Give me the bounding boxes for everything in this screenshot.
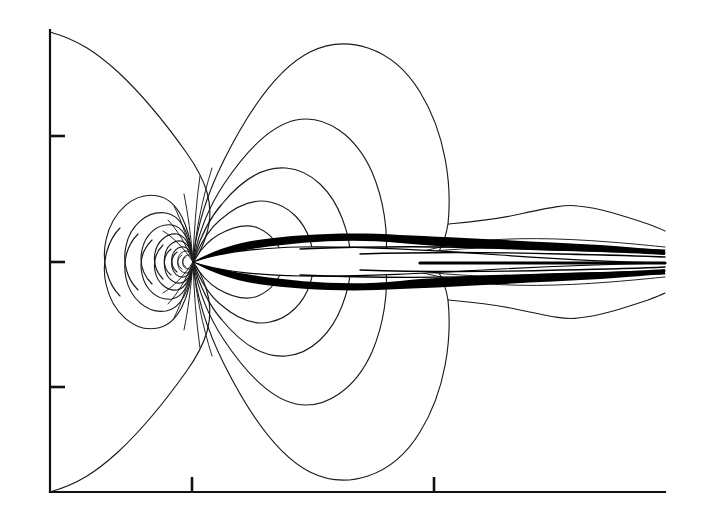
contour-plot-area [0, 0, 702, 532]
body-and-wake [193, 234, 665, 291]
contour-wake-upper-outer [448, 205, 665, 231]
contour-figure [0, 0, 702, 532]
contour-wake-lower-outer [448, 293, 665, 319]
